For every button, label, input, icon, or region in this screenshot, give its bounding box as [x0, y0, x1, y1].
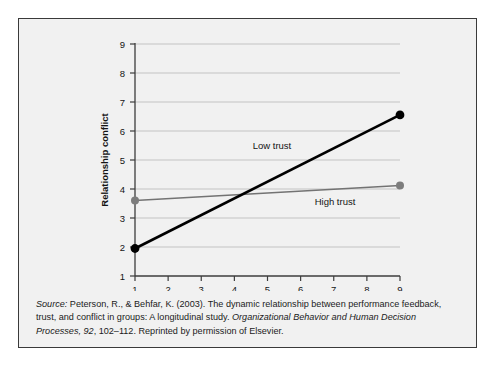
source-label: Source: — [36, 299, 67, 309]
high-trust-point-start — [131, 197, 139, 205]
low-trust-line — [135, 115, 400, 249]
x-tick-label: 3 — [199, 284, 204, 291]
y-tick-label: 3 — [120, 213, 125, 224]
x-tick-label: 4 — [232, 284, 237, 291]
axis-lines — [135, 43, 400, 276]
source-citation: Source: Peterson, R., & Behfar, K. (2003… — [36, 298, 460, 338]
y-axis-tick-labels: 9 8 7 6 5 4 3 2 1 — [120, 39, 125, 282]
source-text-part-2: , 102–112. Reprinted by permission of El… — [94, 326, 284, 336]
series-high-trust — [131, 182, 404, 205]
x-axis-ticks — [135, 276, 400, 281]
x-tick-label: 8 — [364, 284, 369, 291]
x-tick-label: 7 — [331, 284, 336, 291]
x-tick-label: 2 — [165, 284, 170, 291]
y-tick-label: 4 — [120, 184, 125, 195]
y-tick-label: 7 — [120, 97, 125, 108]
x-tick-label: 1 — [132, 284, 137, 291]
figure-frame: 9 8 7 6 5 4 3 2 1 1 2 3 4 5 6 7 8 9 — [18, 18, 477, 348]
x-tick-label: 6 — [298, 284, 303, 291]
y-axis-title: Relationship conflict — [99, 112, 110, 206]
line-chart: 9 8 7 6 5 4 3 2 1 1 2 3 4 5 6 7 8 9 — [19, 19, 476, 291]
series-label-low-trust: Low trust — [253, 140, 292, 151]
y-tick-label: 8 — [120, 68, 125, 79]
chart-plot-area: 9 8 7 6 5 4 3 2 1 1 2 3 4 5 6 7 8 9 — [19, 19, 476, 291]
x-axis-tick-labels: 1 2 3 4 5 6 7 8 9 — [132, 284, 402, 291]
y-tick-label: 5 — [120, 155, 125, 166]
y-axis-ticks — [130, 44, 135, 276]
series-label-high-trust: High trust — [315, 196, 356, 207]
high-trust-point-end — [396, 182, 404, 190]
series-low-trust — [131, 111, 405, 253]
high-trust-line — [135, 186, 400, 201]
x-tick-label: 5 — [265, 284, 270, 291]
y-tick-label: 9 — [120, 39, 125, 50]
y-tick-label: 2 — [120, 242, 125, 253]
low-trust-point-start — [131, 244, 140, 253]
y-tick-label: 1 — [120, 271, 125, 282]
y-tick-label: 6 — [120, 126, 125, 137]
x-tick-label: 9 — [397, 284, 402, 291]
low-trust-point-end — [396, 111, 405, 120]
